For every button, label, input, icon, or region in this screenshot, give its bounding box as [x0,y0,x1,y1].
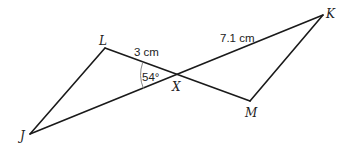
vertex-label-K: K [325,7,336,21]
vertex-label-X: X [171,80,181,94]
length-label-LX: 3 cm [134,46,159,58]
bowtie-triangle-diagram: L J X M K 3 cm 7.1 cm 54° [0,0,353,146]
vertex-label-L: L [98,34,107,48]
angle-label-X: 54° [142,71,159,83]
segment-JL [30,48,105,134]
length-label-XK: 7.1 cm [220,32,255,44]
segment-MK [250,15,323,101]
segment-JK [30,15,323,134]
vertex-label-J: J [17,129,26,143]
vertex-label-M: M [244,106,258,120]
